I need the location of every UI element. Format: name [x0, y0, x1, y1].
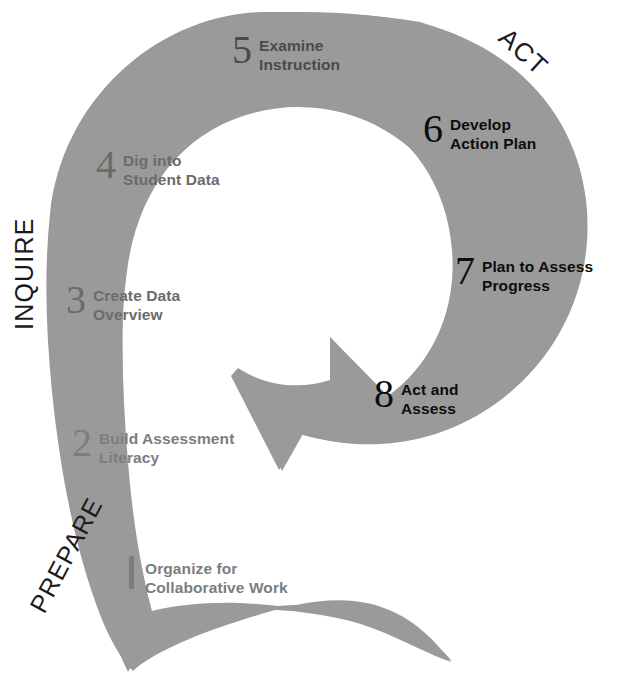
- step-7-label: Plan to Assess Progress: [482, 254, 593, 295]
- step-3-line2: Overview: [93, 305, 180, 324]
- step-6-number: 6: [423, 112, 443, 146]
- step-8: 8 Act and Assess: [374, 377, 459, 418]
- step-5: 5 Examine Instruction: [232, 33, 340, 74]
- step-6-label: Develop Action Plan: [450, 112, 536, 153]
- step-2-line2: Literacy: [99, 448, 234, 467]
- step-6-line2: Action Plan: [450, 134, 536, 153]
- step-3: 3 Create Data Overview: [66, 283, 180, 324]
- step-4-line2: Student Data: [123, 170, 220, 189]
- phase-label-inquire: INQUIRE: [10, 217, 39, 330]
- step-5-number: 5: [232, 33, 252, 67]
- step-5-line2: Instruction: [259, 55, 340, 74]
- step-2-line1: Build Assessment: [99, 430, 234, 447]
- step-6-line1: Develop: [450, 116, 511, 133]
- step-1-line1: Organize for: [145, 560, 238, 577]
- step-8-label: Act and Assess: [401, 377, 459, 418]
- step-7: 7 Plan to Assess Progress: [455, 254, 593, 295]
- step-4: 4 Dig into Student Data: [96, 148, 220, 189]
- step-4-number: 4: [96, 148, 116, 182]
- step-8-line2: Assess: [401, 399, 459, 418]
- step-1-label: Organize for Collaborative Work: [145, 556, 288, 597]
- step-5-line1: Examine: [259, 37, 323, 54]
- spiral-shape: [0, 0, 617, 681]
- step-3-line1: Create Data: [93, 287, 180, 304]
- step-7-line2: Progress: [482, 276, 593, 295]
- step-8-number: 8: [374, 377, 394, 411]
- step-7-number: 7: [455, 254, 475, 288]
- step-1-number-bar: [129, 556, 134, 589]
- step-7-line1: Plan to Assess: [482, 258, 593, 275]
- step-4-line1: Dig into: [123, 152, 181, 169]
- step-3-number: 3: [66, 283, 86, 317]
- step-5-label: Examine Instruction: [259, 33, 340, 74]
- spiral-diagram: 5 Examine Instruction 6 Develop Action P…: [0, 0, 617, 681]
- step-1-line2: Collaborative Work: [145, 578, 288, 597]
- step-8-line1: Act and: [401, 381, 459, 398]
- step-2-number: 2: [72, 426, 92, 460]
- step-2-label: Build Assessment Literacy: [99, 426, 234, 467]
- step-6: 6 Develop Action Plan: [423, 112, 536, 153]
- step-4-label: Dig into Student Data: [123, 148, 220, 189]
- step-2: 2 Build Assessment Literacy: [72, 426, 234, 467]
- step-1: Organize for Collaborative Work: [127, 556, 288, 597]
- step-3-label: Create Data Overview: [93, 283, 180, 324]
